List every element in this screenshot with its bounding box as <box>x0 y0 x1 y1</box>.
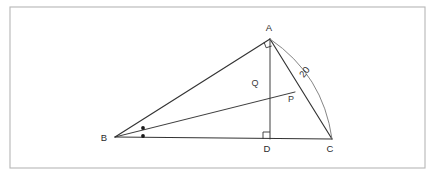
vertex-label-group: A B C D P Q 20 <box>101 22 334 154</box>
diagram-canvas: A B C D P Q 20 <box>0 0 438 185</box>
angle-dot-upper <box>141 126 145 130</box>
angle-dot-lower <box>141 134 145 138</box>
geometry-figure: A B C D P Q 20 <box>0 0 438 185</box>
segment-group <box>115 39 332 139</box>
figure-border <box>10 7 425 168</box>
segment-ab <box>115 39 270 137</box>
equal-angle-dot-group <box>141 126 145 138</box>
vertex-label-a: A <box>266 22 273 33</box>
segment-ac <box>270 39 332 139</box>
segment-bc <box>115 137 332 139</box>
vertex-label-q: Q <box>251 78 258 88</box>
arc-measure-label: 20 <box>297 64 312 79</box>
vertex-label-d: D <box>264 143 271 154</box>
segment-bp-cevian <box>115 92 295 137</box>
vertex-label-c: C <box>327 143 334 154</box>
vertex-label-b: B <box>101 132 107 143</box>
vertex-label-p: P <box>288 94 294 104</box>
right-angle-marker-a <box>264 42 272 48</box>
